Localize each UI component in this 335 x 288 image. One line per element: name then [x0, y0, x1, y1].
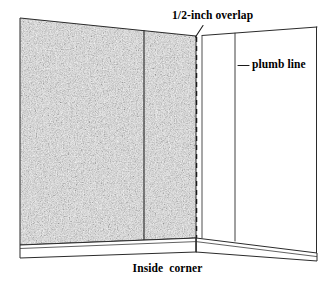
wallpaper-texture-coarse: [18, 14, 200, 250]
plumb-line-label: plumb line: [252, 59, 306, 71]
illustration-canvas: 1/2-inch overlap plumb line Inside corne…: [0, 0, 335, 288]
inside-corner-diagram: [0, 0, 335, 288]
inside-corner-caption: Inside corner: [0, 263, 335, 275]
left-wall: [18, 14, 200, 250]
overlap-label: 1/2-inch overlap: [172, 10, 253, 22]
wallpaper-texture: [18, 14, 200, 250]
